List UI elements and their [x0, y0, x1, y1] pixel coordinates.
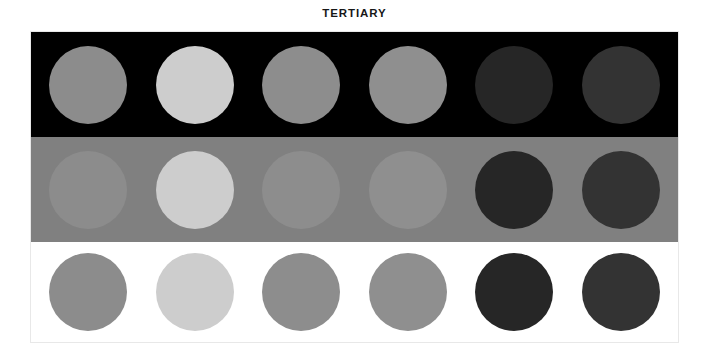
swatch-dot: [156, 151, 234, 229]
swatch-dot: [582, 253, 660, 331]
swatch-panel: [30, 31, 679, 343]
swatch-dot: [369, 46, 447, 124]
swatch-dot: [49, 253, 127, 331]
swatch-sheet: TERTIARY: [0, 0, 709, 363]
swatch-dot: [369, 253, 447, 331]
swatch-dot: [156, 46, 234, 124]
swatch-dot: [475, 151, 553, 229]
swatch-dot: [49, 46, 127, 124]
swatch-dot: [262, 253, 340, 331]
page-title: TERTIARY: [0, 7, 709, 19]
swatch-band-white: [31, 242, 678, 342]
swatch-dot: [262, 46, 340, 124]
swatch-dot: [262, 151, 340, 229]
swatch-band-black: [31, 32, 678, 137]
swatch-dot: [49, 151, 127, 229]
swatch-dot: [156, 253, 234, 331]
swatch-dot: [582, 151, 660, 229]
swatch-band-gray: [31, 137, 678, 242]
swatch-dot: [369, 151, 447, 229]
swatch-dot: [582, 46, 660, 124]
swatch-dot: [475, 253, 553, 331]
swatch-dot: [475, 46, 553, 124]
